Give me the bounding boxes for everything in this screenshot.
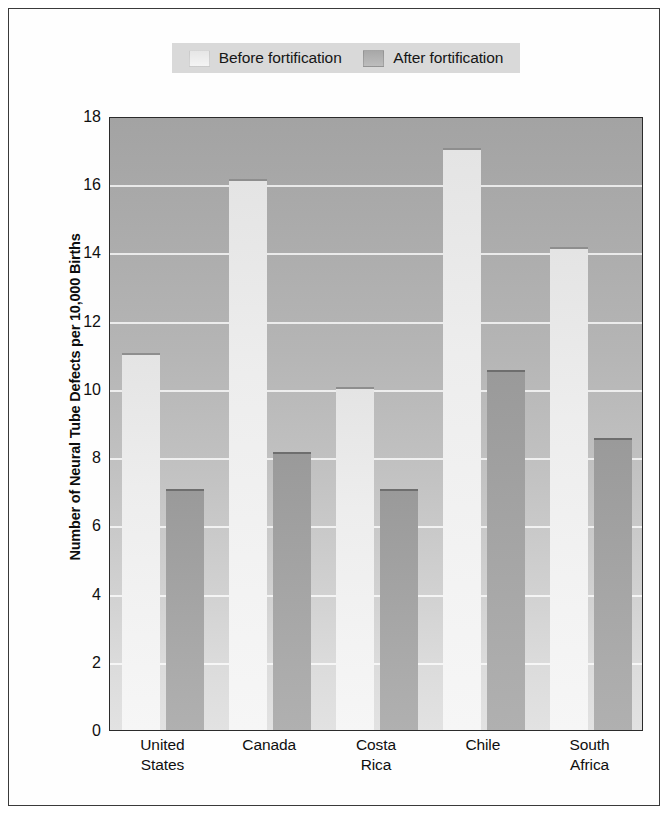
bar-group xyxy=(122,118,204,730)
x-tick-label: Chile xyxy=(429,735,536,755)
x-tick-label: CostaRica xyxy=(323,735,430,775)
figure-frame: Before fortification After fortification… xyxy=(8,8,660,806)
bar-group xyxy=(229,118,311,730)
bar-before[interactable] xyxy=(229,179,267,730)
chart-legend: Before fortification After fortification xyxy=(172,43,520,73)
bar-after[interactable] xyxy=(487,370,525,730)
bar-before[interactable] xyxy=(550,247,588,730)
bar-group xyxy=(550,118,632,730)
y-axis-title: Number of Neural Tube Defects per 10,000… xyxy=(67,117,83,677)
x-tick-label: SouthAfrica xyxy=(536,735,643,775)
bar-after[interactable] xyxy=(380,489,418,730)
bar-after[interactable] xyxy=(166,489,204,730)
bar-before[interactable] xyxy=(122,353,160,730)
x-tick-label: UnitedStates xyxy=(109,735,216,775)
bar-after[interactable] xyxy=(594,438,632,730)
legend-swatch-before-icon xyxy=(189,50,210,67)
bars-layer xyxy=(110,118,642,730)
bar-before[interactable] xyxy=(443,148,481,730)
bar-after[interactable] xyxy=(273,452,311,730)
legend-item-after[interactable]: After fortification xyxy=(363,49,503,67)
legend-swatch-after-icon xyxy=(363,50,384,67)
y-tick-label: 0 xyxy=(63,722,101,740)
bar-group xyxy=(443,118,525,730)
legend-item-before[interactable]: Before fortification xyxy=(189,49,342,67)
legend-label-before: Before fortification xyxy=(219,49,342,67)
legend-label-after: After fortification xyxy=(393,49,503,67)
x-tick-label: Canada xyxy=(216,735,323,755)
plot-area xyxy=(109,117,643,731)
bar-before[interactable] xyxy=(336,387,374,730)
x-axis-category-labels: UnitedStatesCanadaCostaRicaChileSouthAfr… xyxy=(109,735,643,795)
bar-group xyxy=(336,118,418,730)
